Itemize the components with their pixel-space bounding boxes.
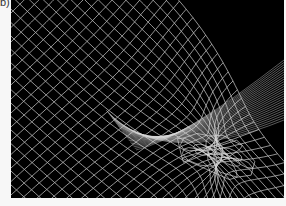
panel-label: b) xyxy=(0,0,10,8)
mesh-figure xyxy=(11,0,284,198)
wireframe-mesh xyxy=(11,0,284,198)
